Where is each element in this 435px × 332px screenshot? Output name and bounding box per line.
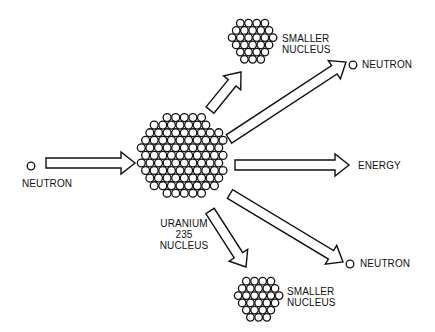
uranium-label-line3: NUCLEUS [148, 240, 220, 251]
smaller-nucleus-top-line1: SMALLER [282, 33, 331, 44]
incoming-neutron-icon [27, 162, 35, 170]
smaller-nucleus-bottom-line1: SMALLER [287, 286, 336, 297]
arrow-to-energy [235, 154, 349, 176]
smaller-nucleus-bottom-line2: NUCLEUS [287, 297, 336, 308]
uranium-nucleus-label: URANIUM 235 NUCLEUS [148, 218, 220, 251]
emitted-neutron-top-icon [349, 61, 357, 69]
emitted-neutron-bottom-label: NEUTRON [360, 258, 410, 269]
smaller-nucleus-bottom-label: SMALLER NUCLEUS [287, 286, 336, 308]
uranium-label-line2: 235 [148, 229, 220, 240]
uranium-label-line1: URANIUM [148, 218, 220, 229]
incoming-neutron-arrow [46, 152, 135, 174]
energy-label: ENERGY [358, 160, 401, 171]
uranium-nucleus-icon [137, 114, 227, 198]
fission-diagram: NEUTRON URANIUM 235 NUCLEUS SMALLER NUCL… [0, 0, 435, 332]
smaller-nucleus-top-line2: NUCLEUS [282, 44, 331, 55]
incoming-neutron-label: NEUTRON [22, 178, 72, 189]
smaller-nucleus-top-icon [228, 19, 277, 63]
arrow-to-smaller-nucleus-top [206, 72, 241, 113]
arrow-to-neutron-top [226, 61, 346, 144]
emitted-neutron-bottom-icon [346, 260, 354, 268]
smaller-nucleus-top-label: SMALLER NUCLEUS [282, 33, 331, 55]
emitted-neutron-top-label: NEUTRON [362, 59, 412, 70]
smaller-nucleus-bottom-icon [234, 277, 283, 321]
